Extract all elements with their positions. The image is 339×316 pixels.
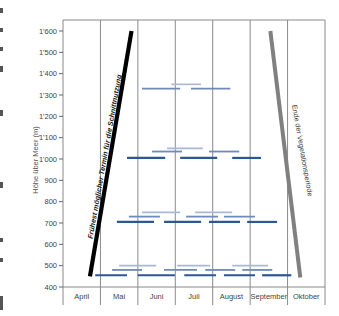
cropped-edge-fragment <box>0 110 3 116</box>
y-tick-label: 1'200 <box>39 112 57 121</box>
month-label-mai: Mai <box>113 292 125 301</box>
cropped-edge-fragment <box>0 296 3 310</box>
cropped-edge-fragment <box>0 47 3 51</box>
y-axis: 4005006007008009001'0001'1001'2001'3001'… <box>39 27 63 292</box>
cropped-edge-fragment <box>0 238 3 242</box>
earliest-cut-line <box>90 31 132 276</box>
vegetation-end-annotation: Ende der Vegetationsperiode <box>290 104 315 197</box>
y-tick-label: 1'000 <box>39 155 57 164</box>
y-tick-label: 1'300 <box>39 91 57 100</box>
cropped-edge-fragment <box>0 66 3 72</box>
month-label-september: September <box>251 292 288 301</box>
vegetation-end-line <box>270 31 300 277</box>
y-tick-label: 1'100 <box>39 133 57 142</box>
y-tick-label: 1'500 <box>39 48 57 57</box>
y-tick-label: 500 <box>44 261 57 270</box>
cropped-edge-fragment <box>0 182 3 188</box>
cropped-edge-fragment <box>0 28 3 32</box>
month-label-juli: Juli <box>188 292 200 301</box>
y-axis-label: Höhe über Meer (m) <box>31 126 40 194</box>
altitude-season-chart: 4005006007008009001'0001'1001'2001'3001'… <box>0 0 339 316</box>
y-tick-label: 600 <box>44 240 57 249</box>
y-tick-label: 700 <box>44 219 57 228</box>
month-label-oktober: Oktober <box>293 292 320 301</box>
early-cut-annotation: Frühest möglicher Termin für die Schnitt… <box>86 73 124 239</box>
chart-canvas: 4005006007008009001'0001'1001'2001'3001'… <box>0 0 339 316</box>
y-tick-label: 400 <box>44 283 57 292</box>
y-tick-label: 900 <box>44 176 57 185</box>
boundary-lines <box>90 31 300 277</box>
cropped-edge-fragment <box>0 258 3 262</box>
month-label-april: April <box>74 292 89 301</box>
y-tick-label: 800 <box>44 197 57 206</box>
month-label-august: August <box>220 292 244 301</box>
month-label-juni: Juni <box>150 292 164 301</box>
y-tick-label: 1'600 <box>39 27 57 36</box>
y-tick-label: 1'400 <box>39 69 57 78</box>
cropped-edge-fragment <box>0 8 3 13</box>
x-axis-months: AprilMaiJuniJuliAugustSeptemberOktober <box>74 292 320 301</box>
season-bars <box>95 84 291 275</box>
